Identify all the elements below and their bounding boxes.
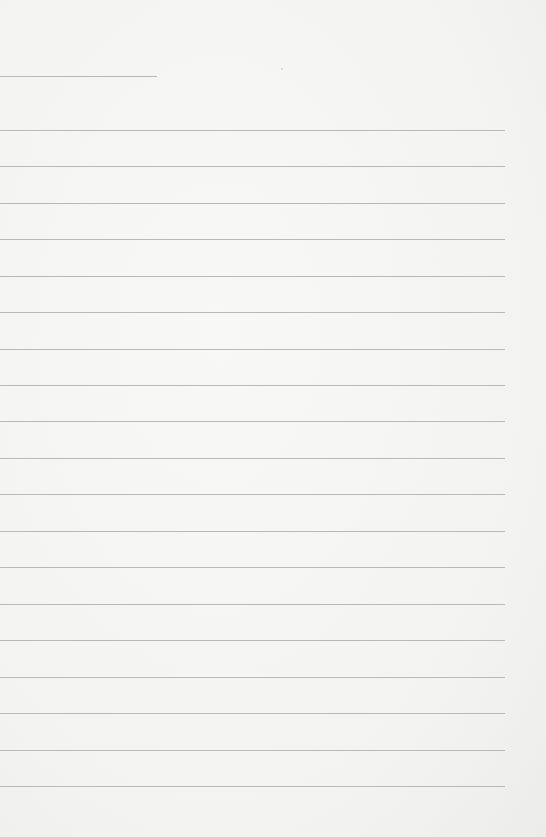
ruled-line [0,312,505,313]
ruled-line [0,385,505,386]
ruled-line [0,458,505,459]
paper-speck [281,68,283,70]
ruled-line [0,567,505,568]
ruled-line [0,349,505,350]
ruled-line [0,531,505,532]
ruled-line [0,750,505,751]
ruled-line [0,239,505,240]
ruled-line [0,166,505,167]
lined-paper-sheet [0,0,546,837]
ruled-line [0,713,505,714]
ruled-line [0,677,505,678]
ruled-line [0,276,505,277]
ruled-line [0,786,505,787]
ruled-line [0,130,505,131]
ruled-line [0,421,505,422]
ruled-line [0,640,505,641]
ruled-line [0,604,505,605]
ruled-line [0,203,505,204]
ruled-line [0,494,505,495]
header-short-rule [0,76,157,77]
